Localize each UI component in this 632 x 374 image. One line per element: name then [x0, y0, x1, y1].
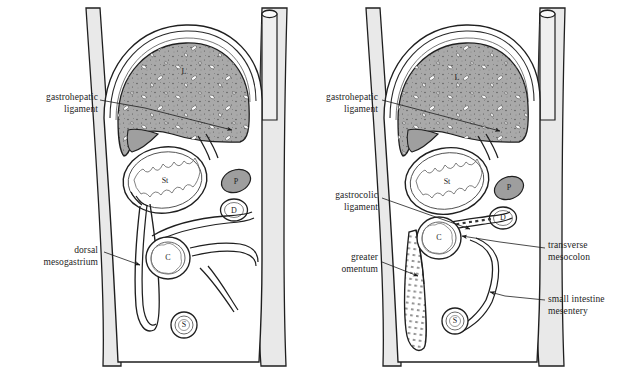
callout-label-line: small intestine	[548, 294, 630, 306]
callout-label-line: mesentery	[548, 306, 630, 318]
organ-key-small-intestine: S	[182, 320, 186, 329]
callout-label-gastrohepatic-ligament: gastrohepaticligament	[296, 92, 378, 115]
organ-key-stomach: St	[444, 177, 451, 186]
organ-key-small-intestine: S	[453, 316, 457, 325]
callout-label-dorsal-mesogastrium: dorsalmesogastrium	[16, 245, 98, 268]
anatomy-illustration: LStPDCSLStPDCS	[0, 0, 632, 374]
callout-label-line: ligament	[296, 104, 378, 116]
organ-key-duodenum: D	[231, 206, 237, 215]
callout-label-gastrohepatic-ligament: gastrohepaticligament	[16, 92, 98, 115]
organ-key-colon: C	[165, 253, 170, 262]
callout-label-line: gastrohepatic	[296, 92, 378, 104]
callout-label-line: gastrocolic	[296, 190, 378, 202]
organ-key-colon: C	[436, 233, 441, 242]
callout-label-gastrocolic-ligament: gastrocolicligament	[296, 190, 378, 213]
callout-label-line: dorsal	[16, 245, 98, 257]
callout-label-line: greater	[296, 252, 378, 264]
callout-label-line: ligament	[16, 104, 98, 116]
spine-column	[262, 10, 277, 120]
organ-key-pancreas: P	[234, 177, 239, 186]
callout-label-line: ligament	[296, 202, 378, 214]
anatomy-figure: LStPDCSLStPDCS gastrohepaticligamentdors…	[0, 0, 632, 374]
callout-label-line: gastrohepatic	[16, 92, 98, 104]
organ-key-duodenum: D	[500, 213, 506, 222]
spine-column	[540, 10, 555, 120]
callout-label-greater-omentum: greateromentum	[296, 252, 378, 275]
organ-key-liver: L	[182, 67, 187, 76]
left-panel-illustration	[86, 8, 287, 366]
callout-label-line: omentum	[296, 264, 378, 276]
callout-label-line: mesocolon	[548, 252, 628, 264]
organ-key-liver: L	[455, 73, 460, 82]
callout-label-transverse-mesocolon: transversemesocolon	[548, 240, 628, 263]
right-panel-illustration	[366, 8, 565, 366]
organ-key-pancreas: P	[507, 183, 512, 192]
callout-label-line: transverse	[548, 240, 628, 252]
callout-label-small-intestine-mesentery: small intestinemesentery	[548, 294, 630, 317]
callout-label-line: mesogastrium	[16, 257, 98, 269]
organ-key-stomach: St	[162, 176, 169, 185]
